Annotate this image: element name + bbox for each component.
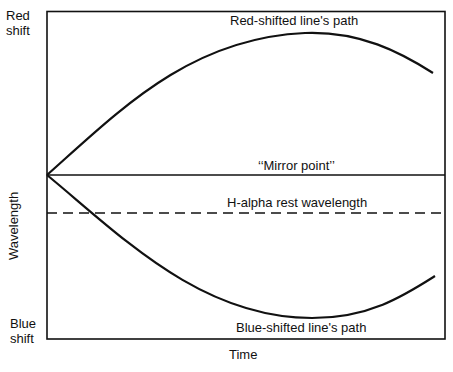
red-shifted-curve	[47, 33, 433, 175]
blue-shift-label-line2: shift	[10, 331, 34, 346]
rest-wavelength-label: H-alpha rest wavelength	[227, 195, 367, 210]
blue-curve-label: Blue-shifted line's path	[236, 320, 366, 335]
mirror-point-label: ‘‘Mirror point’’	[258, 158, 335, 173]
y-axis-label: Wavelength	[6, 192, 21, 260]
x-axis-label: Time	[229, 347, 257, 362]
red-curve-label: Red-shifted line's path	[230, 13, 358, 28]
red-shift-label-line1: Red	[6, 8, 30, 23]
diagram-canvas	[0, 0, 453, 372]
red-shift-label-line2: shift	[6, 23, 30, 38]
blue-shift-label-line1: Blue	[10, 316, 36, 331]
